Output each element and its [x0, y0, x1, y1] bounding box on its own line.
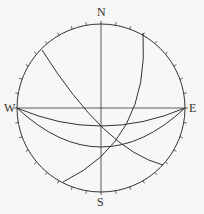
- tick-mark: [15, 93, 18, 94]
- label-south: S: [97, 196, 104, 208]
- tick-mark: [34, 162, 36, 164]
- tick-mark: [19, 78, 22, 79]
- tick-mark: [116, 22, 117, 25]
- tick-mark: [116, 191, 117, 194]
- tick-mark: [26, 150, 29, 152]
- label-west: W: [4, 102, 15, 114]
- tick-mark: [34, 52, 36, 54]
- arc-nw-se: [42, 50, 163, 165]
- tick-mark: [180, 137, 183, 138]
- tick-mark: [71, 187, 72, 190]
- tick-mark: [45, 41, 47, 43]
- tick-mark: [58, 181, 60, 184]
- tick-mark: [86, 22, 87, 25]
- tick-mark: [184, 123, 187, 124]
- stereonet: [0, 0, 204, 214]
- tick-mark: [165, 162, 167, 164]
- tick-mark: [174, 150, 177, 152]
- tick-mark: [26, 65, 29, 67]
- tick-mark: [180, 78, 183, 79]
- tick-mark: [184, 93, 187, 94]
- tick-mark: [130, 187, 131, 190]
- tick-mark: [45, 172, 47, 174]
- tick-mark: [19, 137, 22, 138]
- label-north: N: [97, 6, 106, 18]
- tick-mark: [155, 41, 157, 43]
- arc-ne-sw: [63, 33, 144, 182]
- tick-mark: [130, 26, 131, 29]
- tick-mark: [86, 191, 87, 194]
- tick-mark: [15, 123, 18, 124]
- label-east: E: [189, 102, 196, 114]
- tick-mark: [71, 26, 72, 29]
- tick-mark: [143, 181, 145, 184]
- tick-mark: [58, 33, 60, 36]
- tick-mark: [174, 65, 177, 67]
- tick-mark: [155, 172, 157, 174]
- tick-mark: [165, 52, 167, 54]
